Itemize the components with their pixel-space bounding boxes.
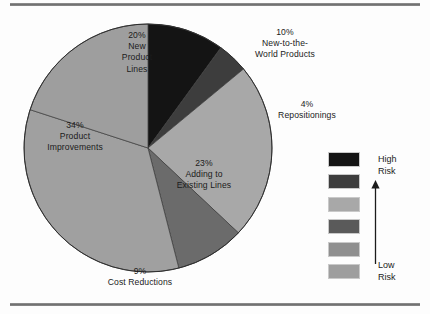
legend-high-risk-label: HighRisk [378,154,397,177]
pie-label-new-to-the-world-products: 10%New-to-the-World Products [225,27,345,61]
legend-swatch [328,152,360,167]
legend-swatch [328,197,360,212]
bottom-rule [10,303,420,306]
figure-container: 20%NewProductLines 10%New-to-the-World P… [0,0,430,314]
risk-increase-arrow-icon [370,180,381,264]
pie-label-product-improvements: 34%ProductImprovements [24,120,126,154]
legend-swatch [328,219,360,234]
pie-label-cost-reductions: 9%Cost Reductions [72,266,208,288]
risk-legend: HighRisk LowRisk [326,152,422,294]
legend-swatch [328,242,360,257]
pie-label-new-product-lines: 20%NewProductLines [104,30,170,75]
top-rule [10,3,420,6]
pie-label-adding-to-existing-lines: 23%Adding toExisting Lines [146,158,262,192]
legend-swatch [328,174,360,189]
legend-swatch [328,264,360,279]
pie-label-repositionings: 4%Repositionings [251,99,363,121]
